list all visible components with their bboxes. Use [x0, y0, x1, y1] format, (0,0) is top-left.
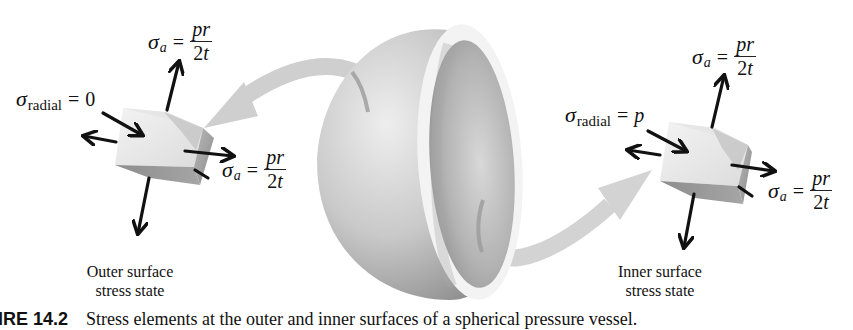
denominator: 2t — [193, 42, 209, 64]
denominator-variable: t — [277, 170, 283, 192]
subscript: a — [704, 56, 711, 70]
label-line-2: stress state — [590, 281, 730, 300]
denominator-number: 2 — [737, 57, 747, 79]
denominator: 2t — [813, 191, 829, 213]
sigma-symbol: σ — [565, 104, 576, 126]
equals-sign: = — [68, 89, 79, 109]
numerator: pr — [190, 19, 212, 42]
subscript: a — [780, 190, 787, 204]
figure-number: IRE 14.2 — [0, 309, 68, 329]
sigma-symbol: σ — [768, 180, 779, 202]
sigma-symbol: σ — [692, 46, 703, 68]
denominator-variable: t — [747, 57, 753, 79]
inner-axial-stress-right-label: σ a = pr 2t — [768, 168, 832, 213]
fraction: pr 2t — [810, 168, 832, 213]
denominator-number: 2 — [193, 42, 203, 64]
inner-axial-stress-top-label: σ a = pr 2t — [692, 34, 756, 79]
radial-value: p — [634, 105, 644, 125]
radial-value: 0 — [85, 89, 95, 109]
outer-axial-stress-right-label: σ a = pr 2t — [222, 147, 286, 192]
outer-axial-stress-top-label: σ a = pr 2t — [148, 19, 212, 64]
sigma-symbol: σ — [148, 31, 159, 53]
fraction: pr 2t — [264, 147, 286, 192]
fraction: pr 2t — [734, 34, 756, 79]
outer-radial-stress-label: σ radial = 0 — [16, 88, 95, 110]
sigma-symbol: σ — [222, 159, 233, 181]
outer-surface-state-label: Outer surface stress state — [60, 262, 200, 300]
denominator-number: 2 — [267, 170, 277, 192]
denominator: 2t — [267, 170, 283, 192]
inner-surface-state-label: Inner surface stress state — [590, 262, 730, 300]
label-line-2: stress state — [60, 281, 200, 300]
inner-radial-stress-label: σ radial = p — [565, 104, 644, 126]
equals-sign: = — [617, 105, 628, 125]
denominator-number: 2 — [813, 191, 823, 213]
subscript: a — [234, 169, 241, 183]
numerator: pr — [734, 34, 756, 57]
caption-text: Stress elements at the outer and inner s… — [86, 309, 637, 329]
equals-sign: = — [173, 32, 184, 52]
denominator-variable: t — [823, 191, 829, 213]
denominator-variable: t — [203, 42, 209, 64]
denominator: 2t — [737, 57, 753, 79]
figure-caption: IRE 14.2Stress elements at the outer and… — [0, 309, 637, 330]
numerator: pr — [810, 168, 832, 191]
equals-sign: = — [793, 181, 804, 201]
equals-sign: = — [717, 47, 728, 67]
subscript: radial — [28, 98, 62, 113]
equals-sign: = — [247, 160, 258, 180]
subscript: radial — [577, 114, 611, 129]
numerator: pr — [264, 147, 286, 170]
label-line-1: Inner surface — [590, 262, 730, 281]
inner-stress-cube — [660, 122, 752, 204]
fraction: pr 2t — [190, 19, 212, 64]
subscript: a — [160, 41, 167, 55]
label-line-1: Outer surface — [60, 262, 200, 281]
sigma-symbol: σ — [16, 88, 27, 110]
